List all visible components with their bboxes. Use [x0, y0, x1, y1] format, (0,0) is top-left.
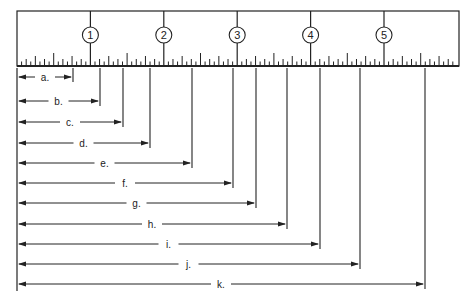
arrowhead-left-icon [18, 201, 26, 206]
arrowhead-left-icon [18, 120, 26, 125]
inch-marker-label: 4 [308, 29, 314, 41]
inch-marker-label: 2 [161, 29, 167, 41]
measurement-label: c. [66, 117, 74, 128]
arrowhead-right-icon [351, 262, 359, 267]
arrowhead-right-icon [64, 75, 72, 80]
measurement-label: h. [148, 219, 156, 230]
arrowhead-right-icon [141, 141, 149, 146]
arrowhead-right-icon [114, 120, 122, 125]
inch-marker-label: 3 [234, 29, 240, 41]
measurement-label: i. [166, 239, 171, 250]
arrowhead-left-icon [18, 161, 26, 166]
arrowhead-left-icon [18, 282, 26, 287]
arrowhead-left-icon [18, 141, 26, 146]
measurement-label: g. [132, 198, 140, 209]
measurement-label: k. [217, 279, 225, 290]
arrowhead-right-icon [91, 99, 99, 104]
measurement-label: b. [54, 96, 62, 107]
measurement-label: a. [41, 72, 49, 83]
inch-marker-label: 5 [381, 29, 387, 41]
arrowhead-left-icon [18, 242, 26, 247]
arrowhead-left-icon [18, 262, 26, 267]
arrowhead-left-icon [18, 181, 26, 186]
arrowhead-right-icon [183, 161, 191, 166]
measurement-label: j. [185, 259, 191, 270]
arrowhead-right-icon [247, 201, 255, 206]
inch-marker-label: 1 [87, 29, 93, 41]
measurement-label: e. [100, 158, 108, 169]
arrowhead-left-icon [18, 99, 26, 104]
arrowhead-right-icon [416, 282, 424, 287]
measurement-label: d. [79, 138, 87, 149]
arrowhead-right-icon [311, 242, 319, 247]
arrowhead-right-icon [224, 181, 232, 186]
ruler-diagram-canvas: 12345a.b.c.d.e.f.g.h.i.j.k. [0, 0, 466, 297]
arrowhead-left-icon [18, 222, 26, 227]
arrowhead-right-icon [278, 222, 286, 227]
arrowhead-left-icon [18, 75, 26, 80]
ruler-diagram: 12345a.b.c.d.e.f.g.h.i.j.k. [0, 0, 466, 297]
measurement-label: f. [122, 178, 128, 189]
